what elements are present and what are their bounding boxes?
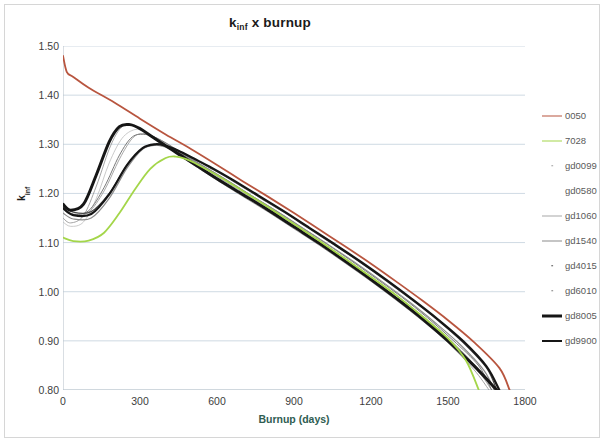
legend-line-swatch: [542, 340, 562, 342]
chart-legend: 00507028gd0099gd0580gd1060gd1540gd4015gd…: [541, 103, 604, 353]
legend-dot-swatch: [551, 265, 553, 267]
x-axis-tick-label: 900: [264, 395, 324, 407]
legend-label: gd0099: [563, 160, 597, 171]
legend-label: gd9900: [563, 335, 597, 346]
y-axis-tick-label: 1.50: [15, 40, 59, 52]
x-axis-tick-label: 1500: [418, 395, 478, 407]
legend-item-gd1060[interactable]: gd1060: [541, 203, 604, 228]
chart-title-main: k: [229, 15, 237, 30]
legend-item-gd9900[interactable]: gd9900: [541, 328, 604, 353]
x-axis-tick-label: 1800: [495, 395, 555, 407]
legend-dot-swatch: [551, 290, 553, 292]
series-line-gd9900: [63, 144, 499, 390]
legend-label: gd1060: [563, 210, 597, 221]
legend-swatch-icon: [541, 285, 563, 297]
legend-item-gd0099[interactable]: gd0099: [541, 153, 604, 178]
plot-svg: [63, 46, 525, 390]
y-axis-tick-label: 1.40: [15, 89, 59, 101]
chart-figure: kinf x burnup kinf 1.501.401.301.201.101…: [4, 4, 600, 438]
legend-label: gd1540: [563, 235, 597, 246]
x-axis-tick-label: 300: [110, 395, 170, 407]
legend-item-gd0580[interactable]: gd0580: [541, 178, 604, 203]
legend-line-swatch: [542, 115, 562, 116]
legend-label: gd4015: [563, 260, 597, 271]
legend-swatch-icon: [541, 235, 563, 247]
legend-swatch-icon: [541, 260, 563, 272]
legend-swatch-icon: [541, 135, 563, 147]
legend-label: gd6010: [563, 285, 597, 296]
legend-item-gd6010[interactable]: gd6010: [541, 278, 604, 303]
x-axis-label: Burnup (days): [63, 413, 525, 425]
legend-item-0050[interactable]: 0050: [541, 103, 604, 128]
series-line-gd6010: [63, 134, 492, 390]
legend-line-swatch: [542, 215, 562, 216]
legend-item-gd8005[interactable]: gd8005: [541, 303, 604, 328]
chart-title-subscript: inf: [237, 22, 248, 32]
legend-item-gd4015[interactable]: gd4015: [541, 253, 604, 278]
y-axis-tick-label: 1.10: [15, 237, 59, 249]
y-axis-tick-label: 1.00: [15, 286, 59, 298]
legend-item-7028[interactable]: 7028: [541, 128, 604, 153]
plot-area: [63, 46, 525, 390]
legend-swatch-icon: [541, 335, 563, 347]
legend-swatch-icon: [541, 210, 563, 222]
legend-label: gd8005: [563, 310, 597, 321]
x-axis-tick-label: 600: [187, 395, 247, 407]
y-axis-tick-label: 1.20: [15, 187, 59, 199]
x-axis-tick-label: 1200: [341, 395, 401, 407]
legend-line-swatch: [542, 314, 562, 317]
legend-swatch-icon: [541, 310, 563, 322]
y-axis-tick-label: 1.30: [15, 138, 59, 150]
series-line-gd1540: [63, 145, 494, 390]
series-line-gd1060: [63, 133, 492, 390]
legend-swatch-icon: [541, 160, 563, 172]
legend-label: 0050: [563, 110, 586, 121]
legend-dot-swatch: [551, 165, 553, 167]
y-axis-ticks: 1.501.401.301.201.101.000.900.80: [11, 46, 59, 390]
legend-line-swatch: [542, 240, 562, 241]
y-axis-tick-label: 0.90: [15, 335, 59, 347]
legend-swatch-icon: [541, 185, 563, 197]
chart-title-tail: x burnup: [248, 15, 311, 30]
x-axis-tick-label: 0: [33, 395, 93, 407]
series-line-7028: [63, 156, 479, 390]
legend-label: gd0580: [563, 185, 597, 196]
legend-label: 7028: [563, 135, 586, 146]
series-line-gd4015: [63, 144, 497, 390]
chart-title: kinf x burnup: [5, 15, 535, 30]
legend-item-gd1540[interactable]: gd1540: [541, 228, 604, 253]
legend-line-swatch: [542, 140, 562, 141]
x-axis-ticks: 0300600900120015001800: [63, 395, 525, 411]
legend-swatch-icon: [541, 110, 563, 122]
